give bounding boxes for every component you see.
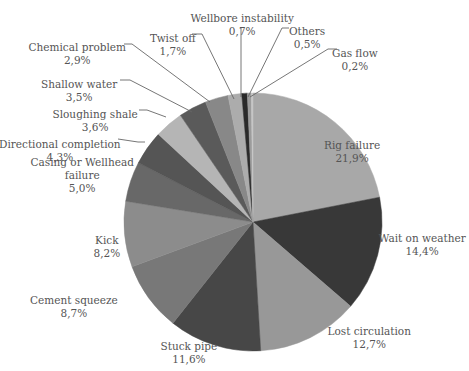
slice-percent: 3,5% — [41, 91, 117, 104]
slice-name: Cement squeeze — [30, 294, 118, 307]
slice-percent: 0,7% — [191, 25, 294, 38]
slice-label: Twist off1,7% — [150, 32, 196, 58]
slice-name: Wellbore instability — [191, 12, 294, 25]
leader-line — [248, 28, 289, 97]
slice-name: Gas flow — [332, 47, 378, 60]
slice-name: Chemical problem — [29, 41, 126, 54]
slice-name: Shallow water — [41, 78, 117, 91]
slice-percent: 5,0% — [31, 182, 134, 195]
slice-percent: 8,2% — [94, 247, 121, 260]
slice-percent: 1,7% — [150, 45, 196, 58]
slice-label: Cement squeeze8,7% — [30, 294, 118, 320]
slice-name: Sloughing shale — [53, 108, 138, 121]
slice-percent: 21,9% — [324, 152, 380, 165]
slice-percent: 0,5% — [289, 38, 325, 51]
leader-line — [118, 139, 145, 142]
slice-label: Lost circulation12,7% — [328, 325, 411, 351]
slice-label: Rig failure21,9% — [324, 139, 380, 165]
slice-label: Kick8,2% — [94, 234, 121, 260]
slice-percent: 0,2% — [332, 60, 378, 73]
leader-line — [139, 110, 166, 117]
slice-label: Gas flow0,2% — [332, 47, 378, 73]
slice-label: Stuck pipe11,6% — [161, 340, 218, 366]
slice-label: Others0,5% — [289, 25, 325, 51]
slice-name: Stuck pipe — [161, 340, 218, 353]
slice-percent: 8,7% — [30, 307, 118, 320]
slice-label: Sloughing shale3,6% — [53, 108, 138, 134]
slice-name: Twist off — [150, 32, 196, 45]
slice-name: Kick — [94, 234, 121, 247]
slice-percent: 4,3% — [0, 151, 121, 164]
slice-label: Directional completion4,3% — [0, 138, 121, 164]
slice-percent: 14,4% — [379, 245, 466, 258]
slice-label: Wait on weather14,4% — [379, 232, 466, 258]
slice-label: Wellbore instability0,7% — [191, 12, 294, 38]
leader-line — [192, 34, 234, 99]
leader-line — [250, 49, 337, 97]
slice-name: Wait on weather — [379, 232, 466, 245]
slice-name: Lost circulation — [328, 325, 411, 338]
slice-name: failure — [31, 169, 134, 182]
slice-percent: 12,7% — [328, 338, 411, 351]
slice-percent: 11,6% — [161, 353, 218, 366]
slice-name: Others — [289, 25, 325, 38]
slice-percent: 3,6% — [53, 121, 138, 134]
slice-name: Directional completion — [0, 138, 121, 151]
slice-percent: 2,9% — [29, 54, 126, 67]
pie-slices — [124, 93, 382, 351]
slice-name: Rig failure — [324, 139, 380, 152]
slice-label: Shallow water3,5% — [41, 78, 117, 104]
slice-label: Chemical problem2,9% — [29, 41, 126, 67]
